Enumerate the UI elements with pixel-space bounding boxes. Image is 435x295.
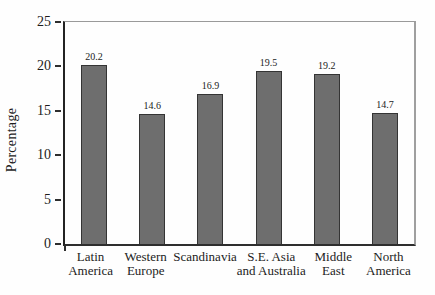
x-label-cell: S.E. Asia and Australia [237, 250, 306, 278]
bar-chart-figure: Percentage 0510152025 20.214.616.919.519… [0, 0, 435, 295]
y-tick-mark [55, 154, 61, 156]
bar [81, 65, 107, 244]
x-axis-category-label: Western Europe [125, 250, 167, 278]
bar-value-label: 20.2 [85, 51, 103, 62]
bar-slot: 16.9 [181, 22, 239, 244]
x-label-cell: Western Europe [118, 250, 173, 278]
bars: 20.214.616.919.519.214.7 [65, 22, 414, 244]
bar-value-label: 19.2 [318, 60, 336, 71]
y-tick-mark [55, 110, 61, 112]
bar-value-label: 16.9 [202, 80, 220, 91]
x-label-cell: Middle East [306, 250, 361, 278]
x-axis-labels: Latin AmericaWestern EuropeScandinaviaS.… [63, 250, 416, 278]
y-tick-label: 5 [44, 193, 51, 207]
x-label-cell: North America [361, 250, 416, 278]
bar-slot: 14.7 [356, 22, 414, 244]
y-tick-label: 10 [37, 148, 51, 162]
y-tick-label: 15 [37, 104, 51, 118]
bar [314, 74, 340, 244]
bar [197, 94, 223, 244]
y-tick-mark [55, 243, 61, 245]
bar-value-label: 14.7 [376, 99, 394, 110]
y-tick-label: 0 [44, 237, 51, 251]
y-tick-mark [55, 199, 61, 201]
bar-value-label: 19.5 [260, 57, 278, 68]
x-axis-category-label: Latin America [68, 250, 113, 278]
bar-slot: 19.5 [240, 22, 298, 244]
bar-slot: 19.2 [298, 22, 356, 244]
bar-value-label: 14.6 [143, 100, 161, 111]
x-label-cell: Latin America [63, 250, 118, 278]
y-tick-label: 25 [37, 15, 51, 29]
x-label-cell: Scandinavia [173, 250, 237, 278]
y-tick-mark [55, 21, 61, 23]
y-tick-label: 20 [37, 59, 51, 73]
bar [139, 114, 165, 244]
bar [256, 71, 282, 244]
x-axis-category-label: Scandinavia [173, 250, 237, 278]
y-axis-title: Percentage [4, 108, 20, 172]
plot-area: 0510152025 20.214.616.919.519.214.7 [63, 21, 416, 246]
x-axis-category-label: North America [366, 250, 411, 278]
bar-slot: 20.2 [65, 22, 123, 244]
y-tick-mark [55, 65, 61, 67]
x-axis-category-label: S.E. Asia and Australia [237, 250, 306, 278]
x-axis-category-label: Middle East [315, 250, 353, 278]
bar-slot: 14.6 [123, 22, 181, 244]
bar [372, 113, 398, 244]
